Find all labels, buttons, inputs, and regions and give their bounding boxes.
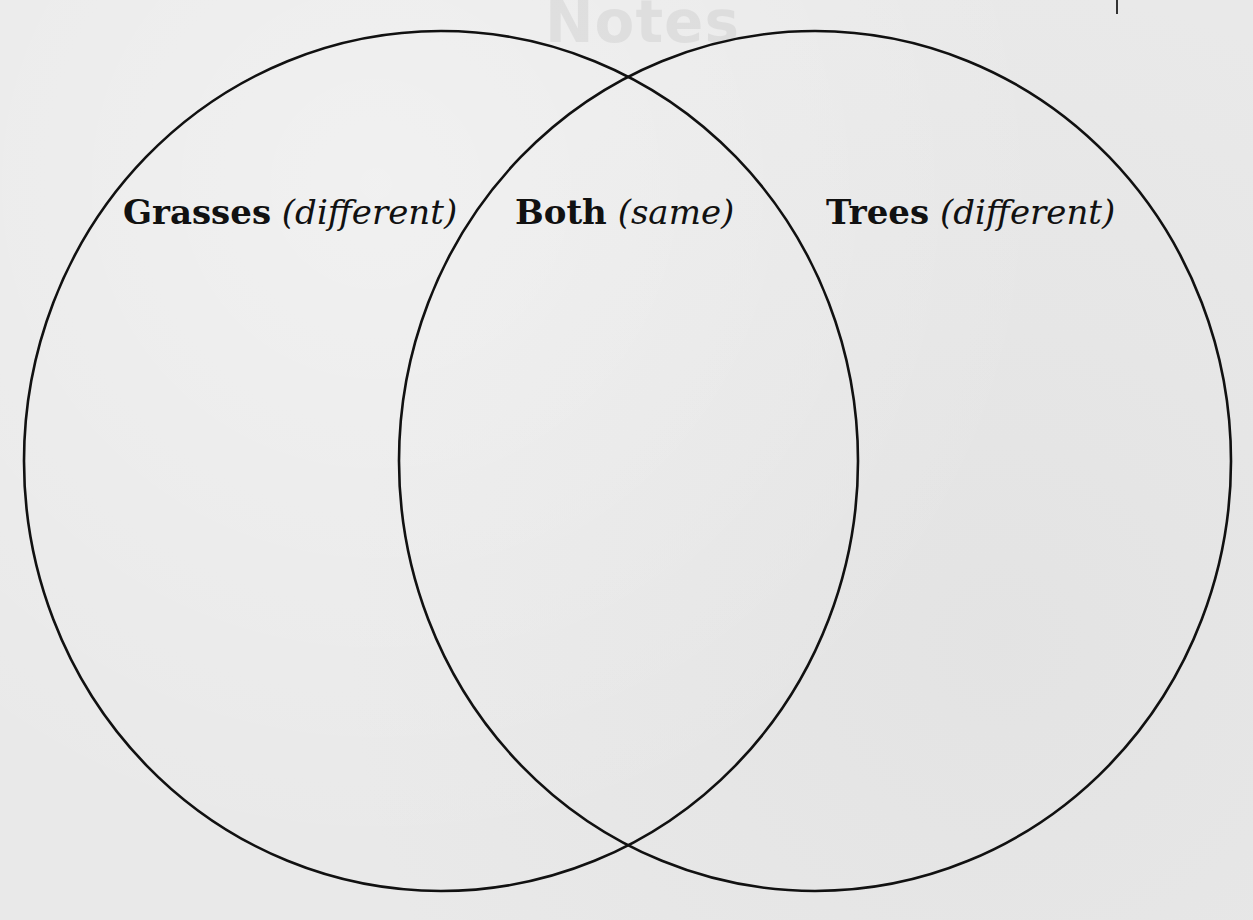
label-trees: Trees (different) bbox=[826, 192, 1115, 232]
label-both-title: Both bbox=[515, 192, 607, 232]
label-grasses: Grasses (different) bbox=[123, 192, 457, 232]
venn-circle-grasses bbox=[24, 31, 858, 891]
label-both: Both (same) bbox=[515, 192, 734, 232]
venn-circle-trees bbox=[399, 31, 1231, 891]
label-grasses-qualifier: (different) bbox=[282, 192, 457, 232]
label-grasses-title: Grasses bbox=[123, 192, 271, 232]
venn-diagram bbox=[0, 0, 1253, 920]
label-trees-title: Trees bbox=[826, 192, 929, 232]
label-both-qualifier: (same) bbox=[618, 192, 735, 232]
label-trees-qualifier: (different) bbox=[940, 192, 1115, 232]
